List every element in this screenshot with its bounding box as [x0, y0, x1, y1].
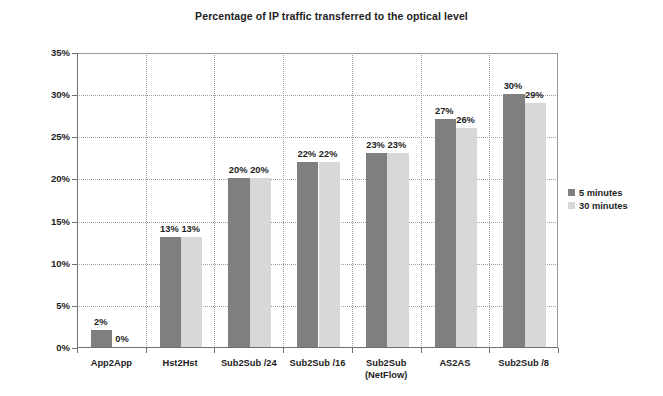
bar [387, 153, 408, 347]
bar [525, 103, 546, 347]
bar-value-label: 23% [380, 140, 413, 150]
bar [366, 153, 387, 347]
bar-value-label: 13% [174, 224, 207, 234]
y-axis-tick-label: 15% [8, 216, 70, 227]
x-axis-category-label: Sub2Sub(NetFlow) [352, 357, 421, 381]
x-axis-category-label: Hst2Hst [146, 357, 215, 369]
bar-value-label: 0% [105, 334, 138, 344]
legend-item-series-0: 5 minutes [568, 186, 628, 199]
x-axis-tick-mark [421, 348, 422, 353]
y-axis-tick-label: 20% [8, 173, 70, 184]
bar [228, 178, 249, 347]
x-axis-category-label: AS2AS [421, 357, 490, 369]
x-axis-category-label: Sub2Sub /16 [283, 357, 352, 369]
y-axis-tick-label: 30% [8, 89, 70, 100]
x-axis-tick-mark [283, 348, 284, 353]
bar-value-label: 26% [449, 115, 482, 125]
bar [435, 119, 456, 347]
bar [160, 237, 181, 347]
x-axis-category-label: Sub2Sub /8 [489, 357, 558, 369]
legend-swatch-icon [568, 189, 575, 196]
x-axis-tick-mark [146, 348, 147, 353]
bar-chart: Percentage of IP traffic transferred to … [0, 0, 663, 396]
x-axis-tick-mark [558, 348, 559, 353]
legend-item-series-1: 30 minutes [568, 199, 628, 212]
x-axis-tick-mark [77, 348, 78, 353]
y-axis-tick-label: 35% [8, 47, 70, 58]
bar [181, 237, 202, 347]
bar [250, 178, 271, 347]
y-axis-tick-label: 0% [8, 342, 70, 353]
bar [456, 128, 477, 347]
bar-value-label: 2% [84, 317, 117, 327]
legend-swatch-icon [568, 202, 575, 209]
legend-label: 30 minutes [579, 201, 628, 211]
legend-label: 5 minutes [579, 188, 622, 198]
bar-value-label: 22% [312, 149, 345, 159]
bar-value-label: 29% [518, 90, 551, 100]
x-axis-tick-mark [214, 348, 215, 353]
x-axis-tick-mark [489, 348, 490, 353]
y-axis-tick-label: 5% [8, 300, 70, 311]
x-axis-tick-mark [352, 348, 353, 353]
bar [319, 162, 340, 347]
bar [503, 94, 524, 347]
y-axis-tick-label: 25% [8, 131, 70, 142]
x-axis-category-label: Sub2Sub /24 [214, 357, 283, 369]
plot-area [77, 53, 558, 348]
chart-legend: 5 minutes 30 minutes [568, 186, 628, 212]
y-axis-tick-label: 10% [8, 258, 70, 269]
bar-value-label: 20% [243, 165, 276, 175]
x-axis-category-label: App2App [77, 357, 146, 369]
chart-title: Percentage of IP traffic transferred to … [0, 10, 663, 22]
bar [297, 162, 318, 347]
